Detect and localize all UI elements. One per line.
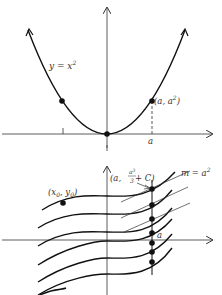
start-point [60,200,66,206]
top-point-label: (a, a3 3 + C) [110,168,155,184]
bottom-graph: (x0, y0) (a, a3 3 + C) m = a2 a [2,145,212,295]
slope-label: m = a2 [181,166,211,178]
curve-label: y = x2 [48,59,76,71]
svg-text:(a,: (a, [110,173,121,183]
x-tick-label: a [157,230,162,240]
parabola-curve [28,30,185,134]
svg-text:3: 3 [130,177,134,184]
point-origin [104,131,110,137]
start-point-label: (x0, y0) [48,187,77,198]
svg-text:+ C): + C) [135,173,155,183]
point-neg-a [59,98,65,104]
diagram-canvas: y = x2 (a, a2) a [0,0,222,295]
top-graph: y = x2 (a, a2) a [2,8,212,148]
x-tick-label: a [148,136,153,146]
point-label: (a, a2) [154,94,180,106]
